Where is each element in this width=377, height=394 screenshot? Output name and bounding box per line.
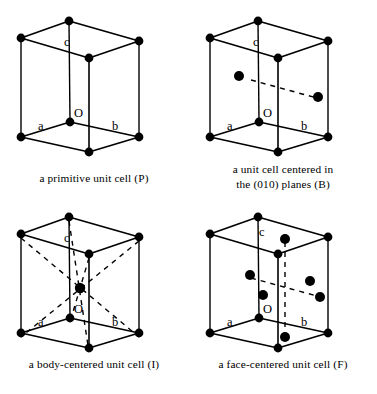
edge: [21, 217, 69, 234]
lattice-point: [206, 329, 215, 338]
primitive-cell-drawing: c O a b: [0, 0, 188, 165]
caption-line: a face-centered unit cell (F): [189, 357, 377, 372]
caption-line: a primitive unit cell (P): [0, 171, 188, 186]
lattice-point: [135, 37, 144, 46]
origin-label: O: [74, 302, 83, 316]
origin-label: O: [263, 106, 272, 120]
edge: [21, 318, 70, 333]
edge: [89, 237, 139, 254]
lattice-point: [85, 250, 94, 259]
lattice-point: [274, 250, 283, 259]
edge: [210, 21, 258, 38]
lattice-point: [135, 133, 144, 142]
edge: [21, 122, 70, 137]
edge: [89, 41, 139, 58]
edge: [210, 122, 259, 137]
lattice-point: [206, 230, 215, 239]
edge: [210, 137, 278, 152]
axis-label-b: b: [301, 315, 307, 329]
face-center-point: [245, 270, 255, 280]
face-center-point: [234, 71, 244, 81]
axis-label-c: c: [64, 231, 70, 245]
edge: [210, 217, 258, 234]
caption-line: the (010) planes (B): [189, 177, 377, 192]
edge: [89, 137, 139, 152]
edge: [278, 41, 328, 58]
edge: [210, 318, 259, 333]
lattice-point: [274, 54, 283, 63]
edge: [70, 122, 139, 137]
axis-label-a: a: [227, 119, 233, 133]
lattice-point: [65, 17, 74, 26]
face-center-point: [280, 234, 290, 244]
edge: [21, 21, 69, 38]
lattice-point: [206, 34, 215, 43]
axis-label-a: a: [227, 315, 233, 329]
axis-label-c: c: [259, 225, 265, 239]
b-centered-cell-drawing: c O a b: [189, 0, 377, 165]
axis-label-b: b: [112, 315, 118, 329]
body-center-point: [75, 283, 85, 293]
axis-label-a: a: [38, 119, 44, 133]
lattice-point: [254, 213, 263, 222]
edge: [258, 21, 328, 41]
lattice-point: [324, 329, 333, 338]
edge: [210, 333, 278, 348]
face-center-point: [313, 92, 323, 102]
edge: [21, 38, 89, 58]
lattice-point: [206, 133, 215, 142]
lattice-point: [135, 233, 144, 242]
lattice-point: [274, 148, 283, 157]
lattice-point: [274, 344, 283, 353]
lattice-point: [17, 329, 26, 338]
lattice-point: [324, 233, 333, 242]
edge: [259, 122, 328, 137]
lattice-point: [17, 133, 26, 142]
unit-cell-figure: c O a b a primitive unit cell (P): [0, 0, 377, 394]
edge: [69, 217, 139, 237]
edge: [70, 318, 139, 333]
body-centered-cell-drawing: c O a b: [0, 196, 188, 361]
centering-guide: [251, 80, 317, 98]
axis-label-c: c: [253, 35, 259, 49]
caption-primitive: a primitive unit cell (P): [0, 171, 188, 186]
lattice-point: [254, 17, 263, 26]
unit-cell-b-centered: c O a b a unit cell centered in the (010…: [189, 0, 377, 197]
unit-cell-primitive: c O a b a primitive unit cell (P): [0, 0, 188, 197]
lattice-point: [324, 37, 333, 46]
edge: [210, 234, 278, 254]
lattice-point: [17, 230, 26, 239]
origin-label: O: [74, 106, 83, 120]
lattice-point: [324, 133, 333, 142]
edge: [210, 38, 278, 58]
axis-label-b: b: [301, 119, 307, 133]
face-centered-cell-drawing: c O a b: [189, 196, 377, 361]
axis-label-c: c: [64, 35, 70, 49]
caption-line: a body-centered unit cell (I): [0, 357, 188, 372]
lattice-point: [65, 213, 74, 222]
lattice-point: [85, 148, 94, 157]
edge: [21, 234, 89, 254]
axis-label-a: a: [38, 315, 44, 329]
lattice-point: [85, 54, 94, 63]
face-center-point: [315, 292, 325, 302]
edge: [21, 137, 89, 152]
caption-b-centered: a unit cell centered in the (010) planes…: [189, 162, 377, 191]
edge: [21, 333, 89, 348]
edge: [278, 137, 328, 152]
lattice-point: [135, 329, 144, 338]
face-center-point: [280, 332, 290, 342]
lattice-point: [85, 344, 94, 353]
origin-label: O: [263, 302, 272, 316]
axis-label-b: b: [112, 119, 118, 133]
edge: [69, 21, 139, 41]
unit-cell-face-centered: c O a b a face-centered unit cell (F): [189, 196, 377, 393]
caption-line: a unit cell centered in: [189, 162, 377, 177]
face-center-point: [258, 290, 268, 300]
edge: [89, 333, 139, 348]
face-center-point: [305, 276, 315, 286]
edge: [258, 217, 328, 237]
caption-face-centered: a face-centered unit cell (F): [189, 357, 377, 372]
lattice-point: [17, 34, 26, 43]
unit-cell-body-centered: c O a b a body-centered unit cell (I): [0, 196, 188, 393]
